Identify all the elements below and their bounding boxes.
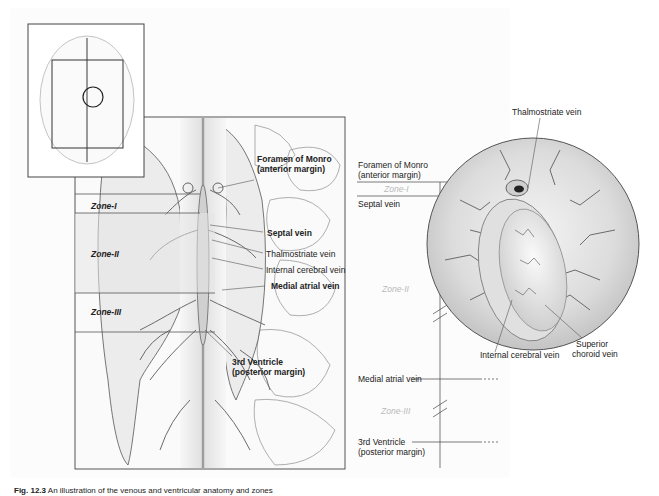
medial-atrial-vein-label: Medial atrial vein [271, 281, 340, 291]
scale-third-ventricle-line1: 3rd Ventricle [358, 437, 405, 447]
foramen-label-line1: Foramen of Monro [257, 154, 332, 164]
septal-vein-label: Septal vein [267, 228, 312, 238]
scale-septal-vein: Septal vein [358, 199, 400, 209]
scale-zone-iii: Zone-III [381, 406, 410, 416]
inset-overview [28, 24, 144, 177]
scale-medial-atrial-vein: Medial atrial vein [358, 374, 422, 384]
endoscopic-circle-view [427, 118, 639, 352]
foramen-label-line2: (anterior margin) [257, 164, 325, 174]
anatomy-illustration [0, 0, 659, 496]
zone-ii-label: Zone-II [91, 249, 119, 259]
scale-zone-ii: Zone-II [382, 284, 409, 294]
third-ventricle-label-line1: 3rd Ventricle [232, 357, 283, 367]
scale-third-ventricle-line2: (posterior margin) [358, 447, 425, 457]
zone-i-label: Zone-I [91, 201, 117, 211]
superior-choroid-label-line2: choroid vein [572, 349, 618, 359]
third-ventricle-label-line2: (posterior margin) [232, 367, 305, 377]
circle-internal-cerebral-label: Internal cerebral vein [480, 350, 559, 360]
circle-thalmostriate-label: Thalmostriate vein [512, 107, 581, 117]
scale-foramen-line2: (anterior margin) [358, 170, 421, 180]
caption-text: An illustration of the venous and ventri… [48, 486, 273, 495]
figure-number: Fig. 12.3 [14, 486, 46, 495]
scale-zone-i: Zone-I [384, 184, 409, 194]
scale-foramen-line1: Foramen of Monro [358, 160, 428, 170]
zone-iii-label: Zone-III [91, 307, 121, 317]
superior-choroid-label-line1: Superior [576, 339, 608, 349]
thalmostriate-vein-label: Thalmostriate vein [266, 249, 335, 259]
internal-cerebral-vein-label: Internal cerebral vein [266, 265, 345, 275]
figure-caption: Fig. 12.3 An illustration of the venous … [14, 486, 273, 495]
